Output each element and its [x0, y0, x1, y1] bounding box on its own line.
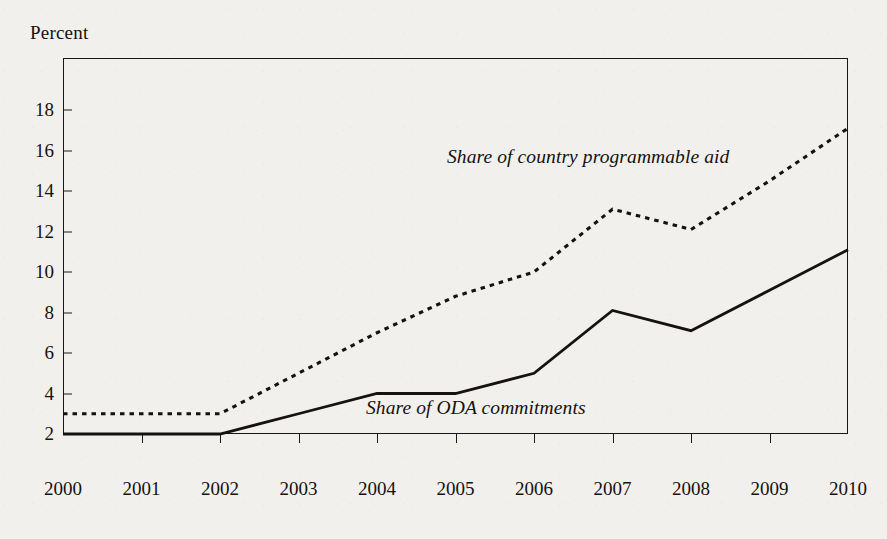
x-axis-tick-mark	[770, 434, 771, 443]
plot-area-frame	[63, 58, 848, 434]
y-axis-tick-label: 16	[14, 140, 54, 162]
y-axis-unit-label: Percent	[30, 22, 88, 44]
y-axis-tick-label: 18	[14, 99, 54, 121]
y-axis-tick-label: 12	[14, 221, 54, 243]
x-axis-tick-label: 2004	[358, 478, 396, 500]
x-axis-tick-mark	[220, 434, 221, 443]
x-axis-tick-mark	[613, 434, 614, 443]
y-axis-tick-label: 8	[14, 302, 54, 324]
x-axis-tick-label: 2008	[672, 478, 710, 500]
x-axis-tick-mark	[377, 434, 378, 443]
y-axis-tick-mark	[63, 393, 72, 394]
y-axis-tick-mark	[63, 231, 72, 232]
x-axis-tick-mark	[299, 434, 300, 443]
x-axis-tick-label: 2009	[751, 478, 789, 500]
chart-figure: Percent 24681012141618 20002001200220032…	[0, 0, 887, 539]
x-axis-tick-label: 2007	[594, 478, 632, 500]
x-axis-tick-mark	[691, 434, 692, 443]
series-label-oda-commitments: Share of ODA commitments	[366, 397, 586, 419]
x-axis-tick-label: 2010	[829, 478, 867, 500]
y-axis-tick-label: 4	[14, 383, 54, 405]
y-axis-tick-mark	[63, 353, 72, 354]
x-axis-tick-label: 2001	[123, 478, 161, 500]
y-axis-tick-mark	[63, 312, 72, 313]
y-axis-tick-label: 10	[14, 261, 54, 283]
y-axis-tick-label: 14	[14, 180, 54, 202]
x-axis-tick-mark	[534, 434, 535, 443]
y-axis-tick-mark	[63, 434, 72, 435]
y-axis-tick-mark	[63, 110, 72, 111]
y-axis-tick-mark	[63, 272, 72, 273]
y-axis-tick-mark	[63, 191, 72, 192]
x-axis-tick-label: 2003	[280, 478, 318, 500]
y-axis-tick-mark	[63, 150, 72, 151]
series-label-country-programmable-aid: Share of country programmable aid	[447, 146, 729, 168]
x-axis-tick-label: 2006	[515, 478, 553, 500]
y-axis-tick-label: 6	[14, 342, 54, 364]
x-axis-tick-label: 2002	[201, 478, 239, 500]
y-axis-tick-label: 2	[14, 423, 54, 445]
x-axis-tick-label: 2005	[437, 478, 475, 500]
x-axis-tick-label: 2000	[44, 478, 82, 500]
x-axis-tick-mark	[142, 434, 143, 443]
x-axis-tick-mark	[456, 434, 457, 443]
